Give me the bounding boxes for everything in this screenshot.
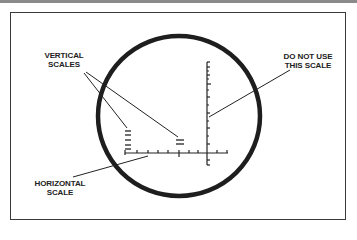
label-horizontal-scale: HORIZONTAL SCALE (28, 179, 92, 197)
label-line: SCALE (28, 188, 92, 197)
label-vertical-scales: VERTICAL SCALES (34, 51, 94, 69)
label-do-not-use: DO NOT USE THIS SCALE (276, 52, 340, 70)
reticle-circle (98, 36, 260, 196)
label-line: THIS SCALE (276, 61, 340, 70)
vertical-scale-center (176, 140, 184, 144)
label-line: HORIZONTAL (28, 179, 92, 188)
label-line: DO NOT USE (276, 52, 340, 61)
vertical-scale-right (207, 62, 211, 165)
vertical-scale-left (125, 131, 131, 149)
horizontal-scale (125, 150, 228, 157)
label-line: VERTICAL (34, 51, 94, 60)
label-line: SCALES (34, 60, 94, 69)
